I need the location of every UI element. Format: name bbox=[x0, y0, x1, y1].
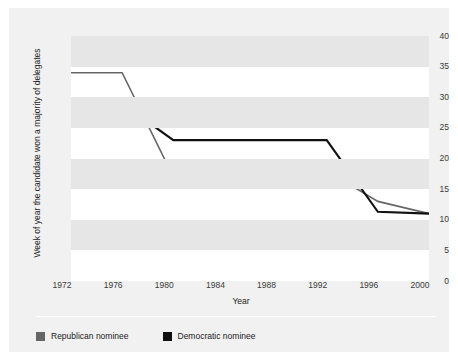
plot-area bbox=[71, 36, 429, 281]
y-tick-label: 35 bbox=[397, 62, 449, 71]
y-tick-label: 40 bbox=[397, 32, 449, 41]
legend-swatch-democratic bbox=[163, 332, 172, 341]
x-tick-label: 2000 bbox=[390, 280, 450, 290]
series-line-republican bbox=[71, 73, 429, 214]
legend-item-republican[interactable]: Republican nominee bbox=[36, 331, 129, 341]
background-band bbox=[71, 159, 429, 190]
legend-swatch-republican bbox=[36, 332, 45, 341]
y-axis: Week of year the candidate won a majorit… bbox=[9, 8, 66, 357]
y-tick-label: 30 bbox=[397, 93, 449, 102]
background-band bbox=[71, 97, 429, 128]
legend-item-democratic[interactable]: Democratic nominee bbox=[163, 331, 256, 341]
x-axis-label: Year bbox=[62, 296, 420, 306]
y-tick-label: 15 bbox=[397, 185, 449, 194]
legend-label-republican: Republican nominee bbox=[51, 331, 129, 341]
clipped-title bbox=[8, 0, 308, 4]
y-tick-label: 5 bbox=[397, 246, 449, 255]
chart-figure: Week of year the candidate won a majorit… bbox=[0, 0, 458, 357]
chart-legend: Republican nominee Democratic nominee bbox=[36, 329, 255, 343]
background-band bbox=[71, 220, 429, 251]
y-tick-label: 20 bbox=[397, 154, 449, 163]
legend-label-democratic: Democratic nominee bbox=[178, 331, 256, 341]
y-tick-label: 25 bbox=[397, 123, 449, 132]
y-tick-label: 10 bbox=[397, 215, 449, 224]
background-band bbox=[71, 36, 429, 67]
legend-separator bbox=[36, 316, 436, 317]
y-axis-label: Week of year the candidate won a majorit… bbox=[32, 33, 42, 273]
